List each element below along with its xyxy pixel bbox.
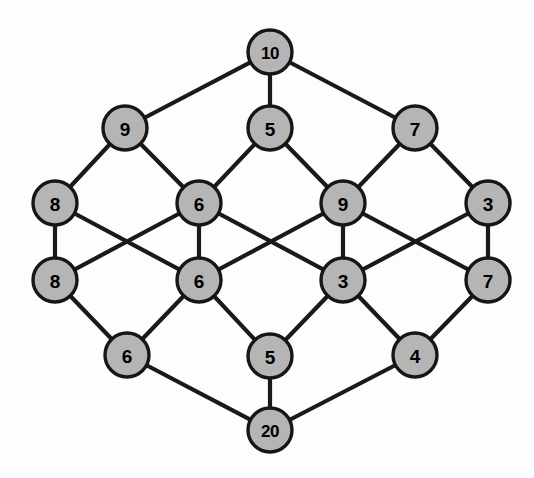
graph-canvas[interactable]: 109578693863765420 xyxy=(0,0,534,478)
graph-node[interactable]: 8 xyxy=(33,258,77,302)
graph-node[interactable]: 8 xyxy=(33,181,77,225)
node-label: 7 xyxy=(410,119,421,140)
node-label: 10 xyxy=(261,44,279,63)
node-label: 9 xyxy=(120,119,131,140)
graph-node[interactable]: 5 xyxy=(248,106,292,150)
graph-node[interactable]: 7 xyxy=(466,258,510,302)
node-label: 20 xyxy=(261,422,279,441)
graph-node[interactable]: 20 xyxy=(248,408,292,452)
node-label: 4 xyxy=(410,346,421,367)
graph-node[interactable]: 9 xyxy=(103,106,147,150)
graph-node[interactable]: 9 xyxy=(321,181,365,225)
node-label: 8 xyxy=(50,271,61,292)
graph-node[interactable]: 3 xyxy=(321,258,365,302)
node-label: 7 xyxy=(483,271,494,292)
graph-node[interactable]: 3 xyxy=(466,181,510,225)
graph-figure: 109578693863765420 xyxy=(0,0,534,478)
node-label: 8 xyxy=(50,194,61,215)
graph-node[interactable]: 6 xyxy=(177,258,221,302)
graph-node[interactable]: 6 xyxy=(105,333,149,377)
graph-node[interactable]: 6 xyxy=(177,181,221,225)
graph-node[interactable]: 5 xyxy=(248,334,292,378)
node-label: 5 xyxy=(265,347,276,368)
node-label: 3 xyxy=(483,194,494,215)
node-label: 6 xyxy=(194,194,205,215)
node-label: 9 xyxy=(338,194,349,215)
graph-node[interactable]: 4 xyxy=(393,333,437,377)
graph-node[interactable]: 10 xyxy=(248,30,292,74)
node-label: 6 xyxy=(194,271,205,292)
node-label: 3 xyxy=(338,271,349,292)
node-label: 5 xyxy=(265,119,276,140)
node-label: 6 xyxy=(122,346,133,367)
graph-node[interactable]: 7 xyxy=(393,106,437,150)
